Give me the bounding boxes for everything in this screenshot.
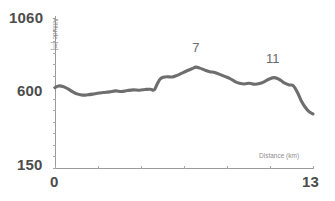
elevation-line: [55, 67, 313, 114]
y-axis-mid-label: 600: [17, 83, 43, 98]
y-axis-max-label: 1060: [9, 10, 43, 25]
peak-label-a: 7: [192, 41, 199, 54]
x-axis-max-label: 13: [302, 174, 319, 189]
x-axis-min-label: 0: [50, 174, 59, 189]
axes-group: [55, 16, 314, 169]
chart-canvas: [0, 0, 335, 201]
peak-label-b: 11: [266, 52, 280, 65]
y-axis-title: Altitude [m]: [52, 18, 59, 51]
y-axis-min-label: 150: [17, 157, 43, 172]
x-axis-title: Distance (km): [259, 153, 299, 160]
elevation-profile-chart: 1060 600 150 0 13 Altitude [m] Distance …: [0, 0, 335, 201]
